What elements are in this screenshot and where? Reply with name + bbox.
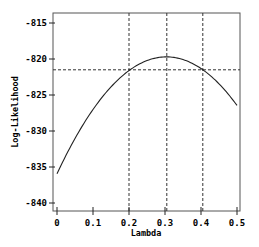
y-tick-label: -815	[25, 18, 47, 28]
reference-lines	[53, 13, 240, 211]
y-tick-label: -830	[25, 126, 47, 136]
x-tick-label: 0.3	[157, 218, 173, 228]
x-tick-label: 0.5	[229, 218, 245, 228]
x-tick-label: 0.1	[85, 218, 101, 228]
y-tick-label: -820	[25, 54, 47, 64]
y-tick-label: -835	[25, 162, 47, 172]
x-axis: 00.10.20.30.40.5	[54, 207, 245, 228]
x-tick-label: 0.4	[193, 218, 210, 228]
x-axis-title: Lambda	[131, 228, 162, 238]
chart: -815-820-825-830-835-840 00.10.20.30.40.…	[0, 0, 259, 247]
plot-frame	[53, 13, 240, 211]
x-tick-label: 0	[54, 218, 59, 228]
y-axis: -815-820-825-830-835-840	[25, 18, 55, 208]
x-tick-label: 0.2	[121, 218, 137, 228]
y-tick-label: -840	[25, 198, 47, 208]
y-axis-title: Log-Likelihood	[10, 76, 20, 148]
y-tick-label: -825	[25, 90, 47, 100]
likelihood-curve	[57, 57, 237, 174]
